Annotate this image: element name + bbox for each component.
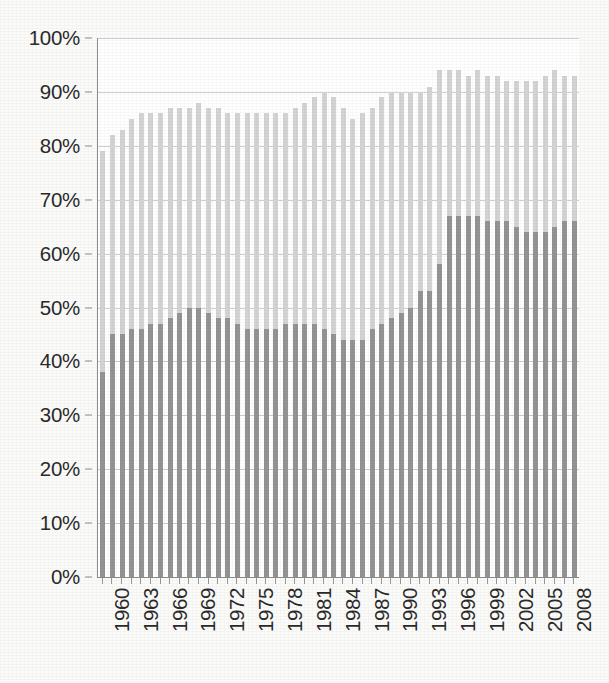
y-tick-label: 40%	[40, 349, 80, 373]
x-tick-mark	[515, 578, 516, 584]
bar-series-front	[235, 324, 240, 577]
x-tick-label: 1960	[110, 588, 134, 632]
x-tick-mark	[111, 578, 112, 584]
x-tick-mark	[188, 578, 189, 584]
x-tick-mark	[477, 578, 478, 584]
bar-group	[444, 38, 454, 577]
bar-group	[435, 38, 445, 577]
x-tick-mark	[198, 578, 199, 584]
x-tick-mark	[121, 578, 122, 584]
bar-group	[425, 38, 435, 577]
x-tick-mark	[179, 578, 180, 584]
bar-series-front	[379, 324, 384, 577]
bar-series-front	[283, 324, 288, 577]
bar-group	[541, 38, 551, 577]
x-tick-label: 1990	[398, 588, 422, 632]
x-tick-label: 1978	[283, 588, 307, 632]
bar-group	[233, 38, 243, 577]
plot-area	[97, 38, 579, 578]
x-tick-mark	[217, 578, 218, 584]
y-tick-label: 10%	[40, 511, 80, 535]
bar-group	[348, 38, 358, 577]
y-tick-mark	[85, 253, 92, 254]
bar-series-front	[475, 216, 480, 577]
x-tick-label: 1969	[196, 588, 220, 632]
x-tick-mark	[256, 578, 257, 584]
y-tick-mark	[85, 91, 92, 92]
x-tick-label: 1966	[168, 588, 192, 632]
bar-series-front	[495, 221, 500, 577]
bar-group	[165, 38, 175, 577]
x-tick-mark	[160, 578, 161, 584]
bar-group	[213, 38, 223, 577]
x-tick-mark	[429, 578, 430, 584]
bar-series-front	[322, 329, 327, 577]
x-tick-mark	[381, 578, 382, 584]
bar-group	[454, 38, 464, 577]
bar-series-front	[552, 227, 557, 577]
bar-group	[521, 38, 531, 577]
y-tick-label: 70%	[40, 188, 80, 212]
bar-group	[281, 38, 291, 577]
x-tick-mark	[487, 578, 488, 584]
x-tick-label: 2008	[572, 588, 596, 632]
bar-series-front	[273, 329, 278, 577]
bar-series-front	[485, 221, 490, 577]
bar-series-front	[408, 308, 413, 578]
bar-series-front	[524, 232, 529, 577]
y-tick-mark	[85, 307, 92, 308]
bar-group	[560, 38, 570, 577]
x-tick-mark	[208, 578, 209, 584]
x-tick-mark	[102, 578, 103, 584]
x-tick-mark	[400, 578, 401, 584]
y-tick-mark	[85, 523, 92, 524]
bar-group	[252, 38, 262, 577]
bar-group	[483, 38, 493, 577]
x-tick-mark	[496, 578, 497, 584]
y-tick-mark	[85, 361, 92, 362]
bar-series-front	[331, 334, 336, 577]
x-tick-mark	[362, 578, 363, 584]
y-tick-label: 60%	[40, 242, 80, 266]
y-tick-mark	[85, 469, 92, 470]
bar-group	[223, 38, 233, 577]
bar-series-front	[543, 232, 548, 577]
bar-group	[464, 38, 474, 577]
x-tick-mark	[294, 578, 295, 584]
bar-series-front	[225, 318, 230, 577]
x-tick-label: 1975	[254, 588, 278, 632]
x-tick-label: 1981	[312, 588, 336, 632]
bar-series-front	[302, 324, 307, 577]
x-tick-mark	[227, 578, 228, 584]
y-tick-mark	[85, 38, 92, 39]
bar-group	[569, 38, 579, 577]
bar-series-front	[514, 227, 519, 577]
bar-group	[377, 38, 387, 577]
x-tick-mark	[419, 578, 420, 584]
x-tick-mark	[573, 578, 574, 584]
x-tick-mark	[342, 578, 343, 584]
x-tick-mark	[140, 578, 141, 584]
x-tick-mark	[304, 578, 305, 584]
bar-group	[204, 38, 214, 577]
bar-series-front	[293, 324, 298, 577]
bar-series-front	[389, 318, 394, 577]
x-tick-mark	[535, 578, 536, 584]
x-tick-mark	[390, 578, 391, 584]
bar-series-front	[264, 329, 269, 577]
bar-series-front	[572, 221, 577, 577]
bar-series-front	[129, 329, 134, 577]
x-tick-mark	[313, 578, 314, 584]
bar-group	[98, 38, 108, 577]
bar-group	[175, 38, 185, 577]
y-tick-mark	[85, 145, 92, 146]
x-tick-mark	[265, 578, 266, 584]
x-tick-mark	[371, 578, 372, 584]
bar-series-front	[447, 216, 452, 577]
bar-group	[271, 38, 281, 577]
bar-series-front	[120, 334, 125, 577]
bar-group	[127, 38, 137, 577]
x-tick-label: 2002	[514, 588, 538, 632]
x-tick-mark	[564, 578, 565, 584]
bar-series-front	[312, 324, 317, 577]
